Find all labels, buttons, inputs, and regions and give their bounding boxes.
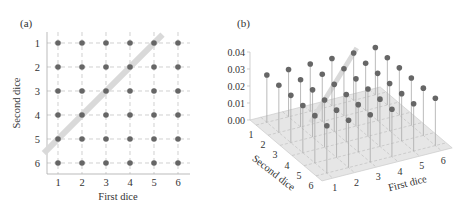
x-tick-label: 5: [419, 160, 424, 171]
outcome-dot: [103, 160, 109, 166]
z-tick-label: 0.03: [228, 64, 246, 75]
panel-a-2d-grid-chart: (a) 123456 123456 First dice Second dice: [11, 17, 190, 202]
outcome-dot: [127, 40, 133, 46]
probability-dot: [397, 65, 403, 71]
probability-dot: [377, 96, 383, 102]
probability-dot: [387, 81, 393, 87]
outcome-dot: [127, 136, 133, 142]
probability-dot: [411, 101, 417, 107]
probability-dot: [346, 118, 352, 124]
probability-dot: [264, 72, 270, 78]
probability-dot: [355, 102, 361, 108]
outcome-dot: [79, 40, 85, 46]
panel-a-axes: [47, 32, 190, 174]
probability-dot: [286, 67, 292, 73]
probability-dot: [363, 60, 369, 66]
y-tick-label: 6: [309, 180, 314, 191]
probability-dot: [310, 87, 316, 93]
z-tick-label: 0.02: [228, 81, 246, 92]
z-tick-label: 0.00: [228, 115, 246, 126]
probability-dot: [365, 86, 371, 92]
probability-dot: [319, 71, 325, 77]
probability-dot: [343, 92, 349, 98]
outcome-dot: [103, 112, 109, 118]
probability-dot: [409, 75, 415, 81]
probability-dot: [367, 112, 373, 118]
probability-dot: [324, 123, 330, 129]
panel-a-x-axis-label: First dice: [98, 191, 138, 202]
outcome-dot: [127, 112, 133, 118]
outcome-dot: [127, 88, 133, 94]
outcome-dot: [103, 136, 109, 142]
outcome-dot: [55, 64, 61, 70]
probability-dot: [399, 91, 405, 97]
panel-a-gridlines: [47, 32, 190, 174]
highlight-line: [44, 35, 163, 154]
panel-b-x-axis-label: First dice: [387, 173, 428, 193]
panel-a-label: (a): [20, 17, 33, 30]
probability-dot: [300, 103, 306, 109]
y-tick-label: 2: [35, 62, 40, 73]
panel-b-label: (b): [237, 17, 250, 30]
outcome-dot: [79, 160, 85, 166]
x-tick-label: 5: [151, 177, 156, 188]
outcome-dot: [79, 64, 85, 70]
outcome-dot: [127, 160, 133, 166]
outcome-dot: [175, 40, 181, 46]
x-tick-label: 1: [55, 177, 60, 188]
y-tick-label: 1: [249, 129, 254, 140]
probability-dot: [276, 82, 282, 88]
probability-dot: [312, 113, 318, 119]
probability-dot: [433, 96, 439, 102]
y-tick-label: 6: [35, 158, 40, 169]
outcome-dot: [175, 64, 181, 70]
panel-a-x-tick-labels: 123456: [55, 177, 180, 188]
outcome-dot: [175, 136, 181, 142]
y-tick-label: 2: [261, 139, 266, 150]
panel-a-outcome-dots: [55, 40, 181, 166]
outcome-dot: [151, 112, 157, 118]
outcome-dot: [151, 40, 157, 46]
outcome-dot: [151, 88, 157, 94]
outcome-dot: [127, 64, 133, 70]
outcome-dot: [55, 136, 61, 142]
panel-b-z-axis: [247, 52, 250, 120]
outcome-dot: [55, 40, 61, 46]
figure: (a) 123456 123456 First dice Second dice…: [0, 0, 470, 214]
probability-dot: [353, 76, 359, 82]
x-tick-label: 1: [332, 182, 337, 193]
x-tick-label: 6: [175, 177, 180, 188]
panel-a-y-axis-label: Second dice: [11, 77, 22, 128]
y-tick-label: 5: [35, 134, 40, 145]
x-tick-label: 4: [127, 177, 133, 188]
outcome-dot: [79, 136, 85, 142]
x-tick-label: 3: [376, 171, 381, 182]
y-tick-label: 4: [285, 160, 290, 171]
x-tick-label: 4: [397, 166, 402, 177]
x-tick-label: 2: [354, 177, 359, 188]
probability-dot: [288, 93, 294, 99]
x-tick-label: 3: [103, 177, 108, 188]
outcome-dot: [151, 160, 157, 166]
outcome-dot: [79, 112, 85, 118]
outcome-dot: [55, 160, 61, 166]
y-tick-label: 1: [35, 38, 40, 49]
outcome-dot: [55, 112, 61, 118]
panel-a-y-tick-labels: 123456: [35, 38, 41, 169]
probability-dot: [351, 50, 357, 56]
outcome-dot: [103, 88, 109, 94]
y-tick-label: 3: [273, 149, 278, 160]
probability-dot: [421, 85, 427, 91]
probability-dot: [341, 66, 347, 72]
probability-dot: [307, 61, 313, 67]
z-tick-label: 0.01: [228, 98, 246, 109]
outcome-dot: [79, 88, 85, 94]
outcome-dot: [175, 112, 181, 118]
y-tick-label: 4: [35, 110, 41, 121]
probability-dot: [334, 107, 340, 113]
panel-b-3d-stem-chart: (b) 0.000.010.020.030.04123456123456 Fir…: [228, 17, 453, 193]
probability-dot: [331, 82, 337, 88]
probability-dot: [389, 107, 395, 113]
outcome-dot: [103, 40, 109, 46]
y-tick-label: 3: [35, 86, 40, 97]
